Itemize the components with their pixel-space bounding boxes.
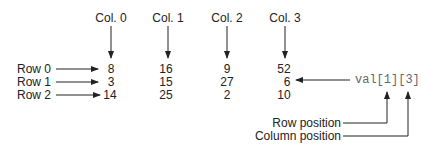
expression: val[1][3]	[355, 74, 420, 87]
col-0-label: Col. 0	[95, 12, 126, 25]
cell: 10	[277, 89, 290, 102]
cell: 25	[159, 89, 172, 102]
cell: 2	[224, 89, 231, 102]
row-2-label: Row 2	[17, 89, 51, 102]
col-3-label: Col. 3	[269, 12, 300, 25]
col-1-label: Col. 1	[152, 12, 183, 25]
cell: 14	[103, 89, 116, 102]
column-position-label: Column position	[255, 130, 341, 143]
col-2-label: Col. 2	[211, 12, 242, 25]
